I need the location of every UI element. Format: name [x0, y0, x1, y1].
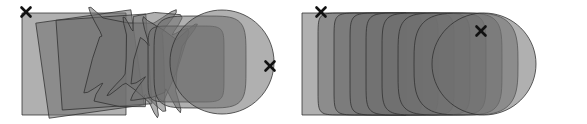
- morph-shape: [432, 13, 536, 115]
- panel-unaligned-interpolation: [0, 0, 294, 124]
- panel-translated-interpolation: [294, 0, 587, 124]
- figure-root: [0, 0, 587, 124]
- translated-morph-shapes: [294, 0, 587, 124]
- unaligned-morph-shapes: [0, 0, 294, 124]
- morph-shape: [170, 10, 274, 114]
